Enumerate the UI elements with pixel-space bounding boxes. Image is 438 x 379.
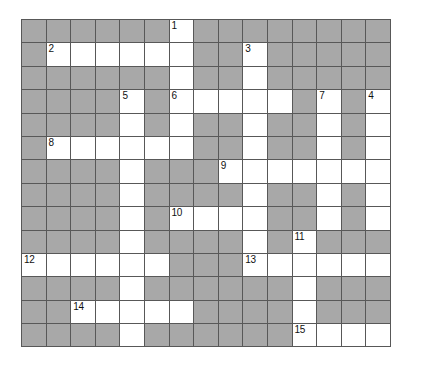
- crossword-cell-open[interactable]: [120, 253, 145, 276]
- crossword-cell-open[interactable]: [169, 113, 194, 136]
- crossword-cell-open[interactable]: [218, 207, 243, 230]
- crossword-cell-open[interactable]: [169, 300, 194, 323]
- crossword-cell-open[interactable]: [144, 253, 169, 276]
- crossword-cell-open[interactable]: [267, 90, 292, 113]
- crossword-cell-open[interactable]: [120, 207, 145, 230]
- crossword-cell-open[interactable]: [317, 324, 342, 347]
- crossword-cell-block: [341, 113, 366, 136]
- crossword-cell-open[interactable]: [71, 253, 96, 276]
- crossword-cell-open[interactable]: 9: [218, 160, 243, 183]
- crossword-cell-open[interactable]: 13: [243, 253, 268, 276]
- crossword-cell-open[interactable]: [144, 136, 169, 159]
- crossword-cell-open[interactable]: [144, 43, 169, 66]
- crossword-row: 11: [22, 230, 391, 253]
- crossword-cell-open[interactable]: [169, 66, 194, 89]
- crossword-cell-open[interactable]: [317, 113, 342, 136]
- crossword-cell-open[interactable]: [243, 66, 268, 89]
- crossword-cell-open[interactable]: [317, 253, 342, 276]
- crossword-cell-block: [71, 113, 96, 136]
- crossword-cell-open[interactable]: [243, 183, 268, 206]
- crossword-cell-open[interactable]: [341, 324, 366, 347]
- crossword-cell-open[interactable]: 2: [46, 43, 71, 66]
- crossword-cell-open[interactable]: 3: [243, 43, 268, 66]
- crossword-cell-open[interactable]: [169, 136, 194, 159]
- crossword-cell-open[interactable]: [317, 183, 342, 206]
- crossword-cell-open[interactable]: [267, 253, 292, 276]
- crossword-cell-open[interactable]: [120, 230, 145, 253]
- crossword-cell-open[interactable]: [194, 207, 219, 230]
- crossword-cell-block: [267, 136, 292, 159]
- crossword-cell-open[interactable]: [292, 300, 317, 323]
- crossword-cell-open[interactable]: [317, 207, 342, 230]
- crossword-cell-open[interactable]: 14: [71, 300, 96, 323]
- crossword-cell-open[interactable]: [366, 136, 391, 159]
- crossword-cell-open[interactable]: [292, 160, 317, 183]
- crossword-cell-open[interactable]: [366, 324, 391, 347]
- crossword-cell-open[interactable]: [46, 253, 71, 276]
- crossword-cell-open[interactable]: [366, 160, 391, 183]
- crossword-cell-open[interactable]: 1: [169, 20, 194, 43]
- crossword-cell-block: [218, 324, 243, 347]
- crossword-cell-block: [292, 136, 317, 159]
- crossword-cell-open[interactable]: [317, 136, 342, 159]
- crossword-cell-open[interactable]: [120, 113, 145, 136]
- crossword-cell-open[interactable]: 7: [317, 90, 342, 113]
- crossword-cell-open[interactable]: [120, 136, 145, 159]
- crossword-cell-open[interactable]: 15: [292, 324, 317, 347]
- crossword-cell-block: [95, 160, 120, 183]
- crossword-cell-open[interactable]: [341, 160, 366, 183]
- crossword-cell-open[interactable]: [120, 160, 145, 183]
- crossword-cell-block: [95, 207, 120, 230]
- crossword-cell-open[interactable]: [366, 207, 391, 230]
- crossword-cell-open[interactable]: [71, 43, 96, 66]
- clue-number: 15: [295, 324, 306, 335]
- crossword-cell-open[interactable]: [95, 136, 120, 159]
- crossword-cell-open[interactable]: [120, 300, 145, 323]
- crossword-cell-open[interactable]: [366, 253, 391, 276]
- crossword-cell-open[interactable]: [144, 300, 169, 323]
- crossword-cell-block: [218, 66, 243, 89]
- crossword-cell-open[interactable]: [341, 253, 366, 276]
- crossword-cell-open[interactable]: 10: [169, 207, 194, 230]
- crossword-cell-open[interactable]: [120, 43, 145, 66]
- crossword-cell-open[interactable]: [95, 43, 120, 66]
- crossword-cell-open[interactable]: 11: [292, 230, 317, 253]
- crossword-cell-block: [194, 20, 219, 43]
- crossword-cell-open[interactable]: [292, 253, 317, 276]
- crossword-cell-open[interactable]: [292, 277, 317, 300]
- crossword-cell-open[interactable]: [243, 207, 268, 230]
- crossword-cell-open[interactable]: [243, 230, 268, 253]
- crossword-cell-block: [341, 207, 366, 230]
- crossword-cell-open[interactable]: 5: [120, 90, 145, 113]
- crossword-cell-open[interactable]: [243, 113, 268, 136]
- crossword-cell-open[interactable]: 4: [366, 90, 391, 113]
- crossword-cell-block: [95, 90, 120, 113]
- crossword-cell-open[interactable]: [95, 253, 120, 276]
- crossword-cell-open[interactable]: 12: [22, 253, 47, 276]
- crossword-cell-open[interactable]: [366, 113, 391, 136]
- crossword-cell-open[interactable]: [366, 183, 391, 206]
- crossword-cell-block: [120, 66, 145, 89]
- crossword-cell-open[interactable]: [267, 160, 292, 183]
- crossword-cell-block: [46, 277, 71, 300]
- crossword-cell-block: [144, 20, 169, 43]
- crossword-cell-open[interactable]: [243, 160, 268, 183]
- crossword-cell-open[interactable]: [95, 300, 120, 323]
- crossword-cell-open[interactable]: [218, 90, 243, 113]
- crossword-cell-open[interactable]: [317, 160, 342, 183]
- crossword-row: 9: [22, 160, 391, 183]
- crossword-cell-open[interactable]: [243, 136, 268, 159]
- crossword-cell-block: [46, 183, 71, 206]
- crossword-cell-open[interactable]: [120, 324, 145, 347]
- crossword-grid[interactable]: 123567489101112131415: [21, 19, 391, 347]
- crossword-cell-open[interactable]: [243, 90, 268, 113]
- crossword-cell-open[interactable]: 6: [169, 90, 194, 113]
- crossword-cell-open[interactable]: [120, 183, 145, 206]
- crossword-cell-open[interactable]: [71, 136, 96, 159]
- crossword-cell-block: [267, 43, 292, 66]
- crossword-cell-open[interactable]: [169, 43, 194, 66]
- crossword-cell-open[interactable]: [120, 277, 145, 300]
- crossword-cell-open[interactable]: 8: [46, 136, 71, 159]
- crossword-row: 15: [22, 324, 391, 347]
- crossword-cell-open[interactable]: [194, 90, 219, 113]
